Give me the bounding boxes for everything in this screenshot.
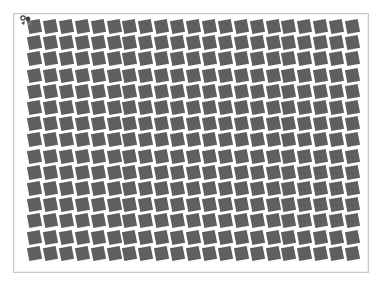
grid-tile xyxy=(313,213,328,228)
grid-tile xyxy=(27,229,42,244)
grid-tile xyxy=(186,67,201,82)
grid-tile xyxy=(90,246,105,261)
grid-tile xyxy=(329,165,344,180)
grid-tile xyxy=(75,100,90,115)
grid-tile xyxy=(122,246,137,261)
grid-tile xyxy=(138,148,153,163)
grid-tile xyxy=(218,148,233,163)
grid-tile xyxy=(297,67,312,82)
grid-tile xyxy=(249,19,264,34)
grid-tile xyxy=(202,181,217,196)
grid-tile xyxy=(202,148,217,163)
grid-tile xyxy=(281,67,296,82)
grid-tile xyxy=(186,148,201,163)
grid-tile xyxy=(106,116,121,131)
grid-tile xyxy=(329,132,344,147)
grid-tile xyxy=(329,35,344,50)
grid-tile xyxy=(249,67,264,82)
grid-tile xyxy=(234,148,249,163)
grid-tile xyxy=(234,116,249,131)
grid-tile xyxy=(218,35,233,50)
grid-tile xyxy=(90,148,105,163)
grid-tile xyxy=(186,51,201,66)
grid-tile xyxy=(202,132,217,147)
grid-tile xyxy=(249,132,264,147)
grid-tile xyxy=(154,84,169,99)
grid-tile xyxy=(43,67,58,82)
grid-tile xyxy=(281,213,296,228)
grid-tile xyxy=(122,100,137,115)
grid-tile xyxy=(281,229,296,244)
grid-tile xyxy=(170,67,185,82)
grid-tile xyxy=(329,213,344,228)
grid-tile xyxy=(122,148,137,163)
grid-tile xyxy=(329,51,344,66)
grid-tile xyxy=(43,197,58,212)
grid-tile xyxy=(170,100,185,115)
grid-tile xyxy=(170,35,185,50)
grid-tile xyxy=(27,181,42,196)
grid-tile xyxy=(75,246,90,261)
grid-tile xyxy=(281,132,296,147)
grid-tile xyxy=(106,51,121,66)
grid-tile xyxy=(122,165,137,180)
grid-tile xyxy=(265,51,280,66)
grid-tile xyxy=(154,67,169,82)
grid-tile xyxy=(265,213,280,228)
grid-tile xyxy=(186,35,201,50)
grid-tile xyxy=(170,229,185,244)
grid-tile xyxy=(297,35,312,50)
grid-tile xyxy=(59,229,74,244)
grid-tile xyxy=(27,197,42,212)
grid-tile xyxy=(170,197,185,212)
grid-tile xyxy=(59,100,74,115)
grid-tile xyxy=(297,19,312,34)
grid-tile xyxy=(265,35,280,50)
grid-tile xyxy=(249,35,264,50)
grid-tile xyxy=(75,148,90,163)
grid-tile xyxy=(297,213,312,228)
grid-tile xyxy=(186,116,201,131)
grid-tile xyxy=(345,51,360,66)
grid-tile xyxy=(186,100,201,115)
grid-tile xyxy=(265,165,280,180)
grid-tile xyxy=(90,100,105,115)
grid-tile xyxy=(202,165,217,180)
grid-tile xyxy=(106,229,121,244)
grid-tile xyxy=(154,51,169,66)
grid-tile xyxy=(154,181,169,196)
grid-tile xyxy=(138,100,153,115)
grid-tile xyxy=(138,181,153,196)
grid-tile xyxy=(138,246,153,261)
grid-tile xyxy=(345,197,360,212)
grid-tile xyxy=(186,213,201,228)
grid-tile xyxy=(345,67,360,82)
grid-tile xyxy=(234,35,249,50)
grid-tile xyxy=(90,84,105,99)
grid-tile xyxy=(345,132,360,147)
grid-tile xyxy=(154,148,169,163)
grid-tile xyxy=(75,165,90,180)
grid-tile xyxy=(170,84,185,99)
grid-tile xyxy=(297,148,312,163)
grid-tile xyxy=(202,100,217,115)
grid-tile xyxy=(249,51,264,66)
grid-tile xyxy=(234,246,249,261)
grid-tile xyxy=(297,84,312,99)
grid-tile xyxy=(202,84,217,99)
grid-tile xyxy=(75,51,90,66)
grid-tile xyxy=(329,181,344,196)
grid-tile xyxy=(27,84,42,99)
grid-tile xyxy=(234,229,249,244)
grid-tile xyxy=(186,132,201,147)
grid-tile xyxy=(234,51,249,66)
grid-tile xyxy=(202,116,217,131)
grid-tile xyxy=(313,35,328,50)
illusion-canvas[interactable] xyxy=(13,13,369,273)
grid-tile xyxy=(154,197,169,212)
grid-tile xyxy=(170,51,185,66)
grid-tile xyxy=(218,116,233,131)
grid-tile xyxy=(170,213,185,228)
grid-tile xyxy=(122,229,137,244)
grid-tile xyxy=(122,51,137,66)
